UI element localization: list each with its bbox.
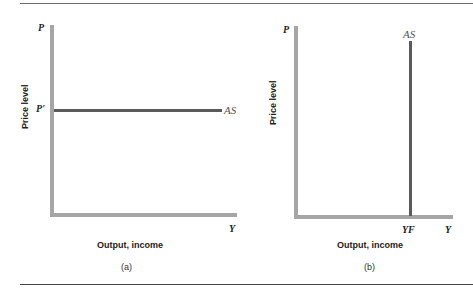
panel-a-x-axis-label: Output, income [97,240,163,250]
panel-a-tag: (a) [121,262,132,272]
panel-b-y-axis-label: Price level [268,80,278,125]
panel-a-y-axis [50,25,54,217]
panel-b-y-axis [294,26,298,218]
panel-a-y-symbol: P [38,23,44,33]
panel-b-x-axis-label: Output, income [337,240,403,250]
panel-a-as-label: AS [224,105,236,116]
panel-b-yf-label: YF [402,225,415,235]
panel-b-y-symbol: P [283,25,289,35]
panel-b-x-symbol: Y [445,225,451,235]
bottom-rule [20,284,473,285]
top-rule [20,3,473,4]
panel-b-as-label: AS [403,29,415,40]
panel-a-x-symbol: Y [229,224,235,234]
panel-a-y-axis-label: Price level [20,84,30,129]
panel-b-tag: (b) [364,262,375,272]
panel-a-price-label: P' [36,104,45,114]
panel-a-x-axis [50,213,237,217]
panel-b-x-axis [294,215,453,219]
panel-b-as-curve [409,41,412,216]
panel-a-as-curve [54,109,222,112]
